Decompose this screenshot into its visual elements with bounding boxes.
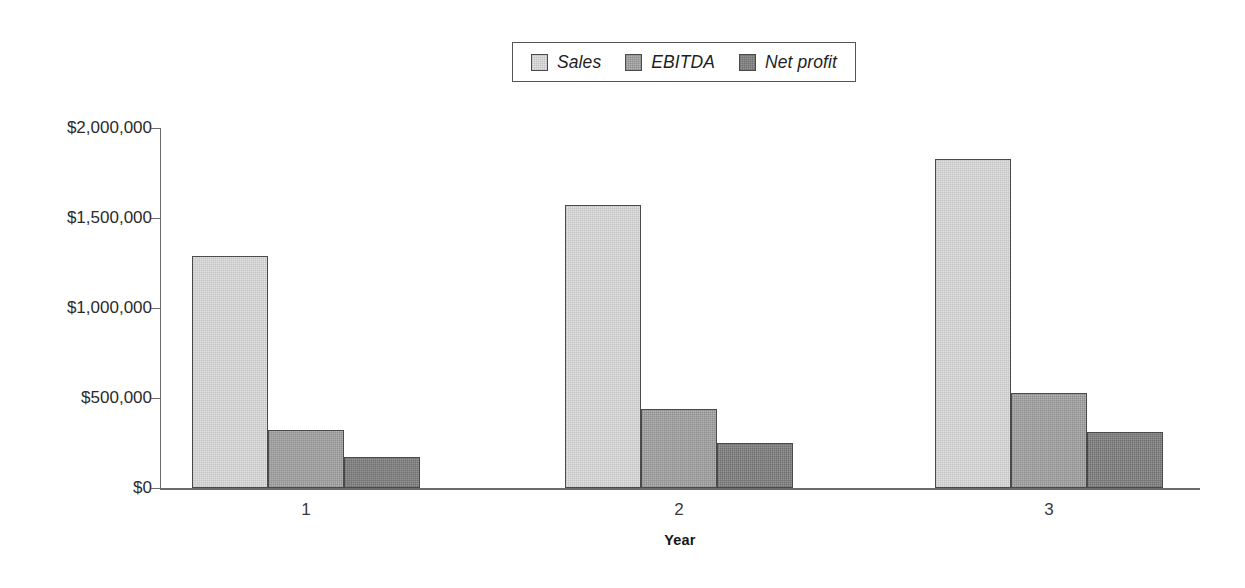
x-tick-label-1: 1 bbox=[301, 500, 310, 520]
x-tick-label-2: 2 bbox=[674, 500, 683, 520]
netprofit-swatch-icon bbox=[739, 54, 756, 71]
y-tick bbox=[151, 398, 160, 399]
x-axis-line bbox=[160, 488, 1200, 490]
y-axis-line bbox=[160, 128, 161, 488]
legend-item-ebitda[interactable]: EBITDA bbox=[625, 52, 715, 73]
bar-chart: Sales EBITDA Net profit $0$500,000$1,000… bbox=[0, 0, 1245, 588]
bar-ebitda-year-1[interactable] bbox=[268, 430, 344, 488]
plot-area: $0$500,000$1,000,000$1,500,000$2,000,000… bbox=[160, 128, 1200, 488]
legend-item-sales[interactable]: Sales bbox=[531, 52, 601, 73]
bar-netprofit-year-2[interactable] bbox=[717, 443, 793, 488]
legend-label-sales: Sales bbox=[557, 52, 601, 73]
legend-label-ebitda: EBITDA bbox=[651, 52, 715, 73]
bar-group-year-3 bbox=[935, 128, 1163, 488]
bar-netprofit-year-3[interactable] bbox=[1087, 432, 1163, 488]
y-tick-label: $0 bbox=[133, 478, 152, 498]
y-tick bbox=[151, 308, 160, 309]
bar-sales-year-1[interactable] bbox=[192, 256, 268, 488]
bar-group-year-2 bbox=[565, 128, 793, 488]
y-tick-label: $1,000,000 bbox=[67, 298, 152, 318]
legend-item-netprofit[interactable]: Net profit bbox=[739, 52, 837, 73]
bar-netprofit-year-1[interactable] bbox=[344, 457, 420, 488]
y-tick bbox=[151, 128, 160, 129]
y-tick-label: $1,500,000 bbox=[67, 208, 152, 228]
bar-ebitda-year-3[interactable] bbox=[1011, 393, 1087, 488]
y-tick-label: $500,000 bbox=[81, 388, 152, 408]
y-axis-labels: $0$500,000$1,000,000$1,500,000$2,000,000 bbox=[12, 128, 152, 488]
ebitda-swatch-icon bbox=[625, 54, 642, 71]
sales-swatch-icon bbox=[531, 54, 548, 71]
bar-ebitda-year-2[interactable] bbox=[641, 409, 717, 488]
x-axis-title: Year bbox=[160, 532, 1200, 548]
chart-legend: Sales EBITDA Net profit bbox=[512, 42, 856, 82]
y-tick bbox=[151, 218, 160, 219]
bar-sales-year-2[interactable] bbox=[565, 205, 641, 488]
y-tick-label: $2,000,000 bbox=[67, 118, 152, 138]
bar-sales-year-3[interactable] bbox=[935, 159, 1011, 488]
legend-label-netprofit: Net profit bbox=[765, 52, 837, 73]
x-tick-label-3: 3 bbox=[1044, 500, 1053, 520]
y-tick bbox=[151, 488, 160, 489]
bar-group-year-1 bbox=[192, 128, 420, 488]
